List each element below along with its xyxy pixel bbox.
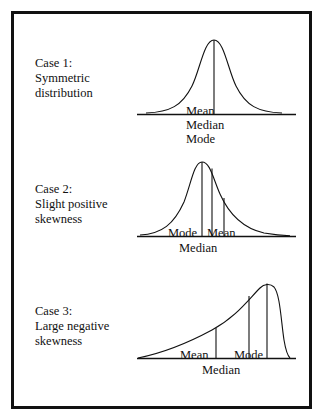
case-1-curve-svg: [124, 18, 304, 118]
case-1-plot: [124, 18, 304, 118]
case-3-stat-mean: Mean: [180, 348, 208, 363]
case-3-stat-mode: Mode: [234, 348, 263, 363]
case-3-stat-median: Median: [202, 363, 240, 378]
case-block-3: Case 3: Large negative skewness Mean Mod…: [14, 262, 309, 382]
case-2-stat-median: Median: [179, 241, 217, 256]
case-2-stat-mode: Mode: [168, 226, 197, 241]
case-2-stat-mean: Mean: [207, 226, 235, 241]
case-block-2: Case 2: Slight positive skewness Mode Me…: [14, 140, 309, 260]
case-1-stat-mean: Mean: [186, 104, 214, 119]
case-3-curve-svg: [124, 262, 304, 362]
case-1-stat-median: Median: [186, 118, 224, 133]
case-2-plot: [124, 140, 304, 240]
case-3-plot: [124, 262, 304, 362]
case-2-distribution-curve: [140, 162, 290, 236]
case-2-curve-svg: [124, 140, 304, 240]
figure-frame: Case 1: Symmetric distribution Mean Medi…: [11, 11, 312, 409]
case-3-stat-labels: Mean Mode Median: [124, 348, 314, 398]
case-block-1: Case 1: Symmetric distribution Mean Medi…: [14, 18, 309, 138]
